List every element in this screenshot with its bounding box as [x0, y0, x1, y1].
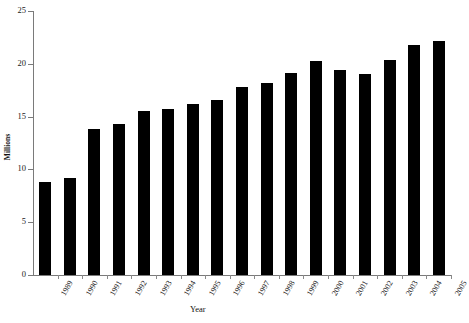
bar: [64, 178, 76, 275]
bar: [285, 73, 297, 275]
bar: [138, 111, 150, 275]
bar: [384, 60, 396, 275]
bar: [39, 182, 51, 275]
bar: [236, 87, 248, 275]
bar: [113, 124, 125, 275]
bar: [359, 74, 371, 275]
bar: [211, 100, 223, 275]
bar: [88, 129, 100, 275]
bar: [334, 70, 346, 275]
bar: [408, 45, 420, 275]
bar: [187, 104, 199, 275]
bar: [433, 41, 445, 275]
bar: [261, 83, 273, 275]
bar: [162, 109, 174, 275]
bar: [310, 61, 322, 275]
